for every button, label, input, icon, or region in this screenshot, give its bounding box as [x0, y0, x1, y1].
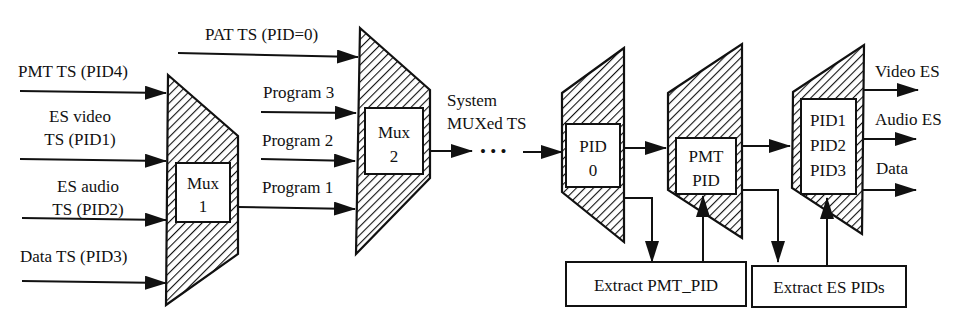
- output-video-es-label: Video ES: [875, 62, 940, 81]
- input-es-audio-arrow: [22, 218, 166, 220]
- input-program1-label: Program 1: [262, 178, 333, 197]
- input-es-video-arrow: [20, 159, 166, 161]
- input-pmt-ts-label: PMT TS (PID4): [18, 62, 128, 81]
- demux-pmt-label-line2: PID: [692, 171, 719, 190]
- input-data-ts-label: Data TS (PID3): [20, 247, 127, 266]
- demux-es-label-line3: PID3: [810, 161, 846, 180]
- extract-es-label: Extract ES PIDs: [773, 278, 884, 297]
- input-program3-label: Program 3: [263, 83, 334, 102]
- demux-pid0-label-line1: PID: [579, 137, 606, 156]
- mux2-label-line1: Mux: [378, 123, 411, 142]
- demux-es-label-line2: PID2: [810, 136, 846, 155]
- input-program3-arrow: [261, 112, 356, 113]
- demux-pmt-group: PMT PID: [668, 44, 790, 264]
- input-pmt-ts-arrow: [20, 91, 166, 93]
- input-program2-label: Program 2: [262, 131, 333, 150]
- input-program2-arrow: [261, 159, 355, 161]
- input-es-video-label-line1: ES video: [49, 107, 111, 126]
- stream-ellipsis: • • •: [480, 142, 506, 161]
- extract-pmt-group: Extract PMT_PID: [566, 262, 746, 306]
- demux-pmt-label-line1: PMT: [689, 147, 725, 166]
- demux-pid0-label-line2: 0: [589, 161, 598, 180]
- pmt-to-extract-es-arrow: [742, 190, 778, 262]
- mux1-label-line1: Mux: [187, 174, 220, 193]
- system-muxed-label-line1: System: [447, 91, 497, 110]
- output-data-label: Data: [876, 159, 909, 178]
- pid0-to-extract-pmt-arrow: [624, 198, 652, 262]
- input-es-audio-label-line1: ES audio: [57, 177, 119, 196]
- input-pat-ts-arrow: [178, 53, 358, 57]
- demux-es-group: PID1 PID2 PID3 Video ES Audio ES Data: [792, 45, 942, 266]
- input-data-ts-arrow: [22, 281, 166, 283]
- mux1-label-line2: 1: [199, 197, 208, 216]
- input-es-audio-label-line2: TS (PID2): [52, 200, 123, 219]
- demux-pid0-group: PID 0: [562, 48, 666, 262]
- extract-es-group: Extract ES PIDs: [752, 266, 906, 307]
- system-muxed-label-line2: MUXed TS: [447, 114, 527, 133]
- mux1-group: Mux 1 PMT TS (PID4) ES video TS (PID1) E…: [18, 62, 238, 305]
- input-es-video-label-line2: TS (PID1): [44, 130, 115, 149]
- mux1-to-mux2-arrow: [238, 207, 355, 209]
- input-pat-ts-label: PAT TS (PID=0): [205, 25, 318, 44]
- mux2-label-line2: 2: [390, 147, 399, 166]
- system-stream-group: System MUXed TS • • •: [430, 91, 562, 161]
- demux-es-label-line1: PID1: [810, 111, 846, 130]
- output-audio-es-label: Audio ES: [875, 110, 942, 129]
- extract-pmt-label: Extract PMT_PID: [594, 276, 718, 295]
- ts-mux-demux-diagram: Mux 1 PMT TS (PID4) ES video TS (PID1) E…: [0, 0, 966, 324]
